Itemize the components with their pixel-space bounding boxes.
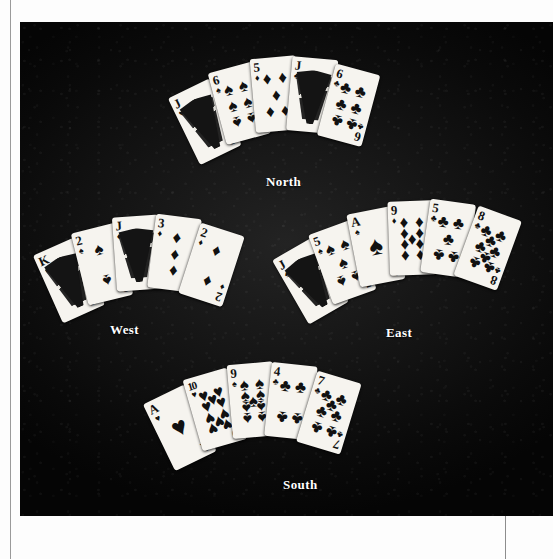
card-pip: ♣ [436, 213, 449, 231]
card-pip: ♠ [242, 410, 252, 428]
bridge-deal-photograph: J♥J♥6♠6♠♠♠♠♠♠♠5♦5♦♦♦♦♦♦J♣J♣6♣6♣♣♣♣♣♣♣ No… [20, 22, 553, 516]
hand-label-west: West [110, 322, 139, 338]
hand-south[interactable]: A♥A♥♥10♥10♥♥♥♥♥♥♥♥♥♥♥9♠9♠♠♠♠♠♠♠♠♠♠4♣4♣♣♣… [165, 347, 365, 482]
card-pip: ♠ [100, 271, 113, 290]
hand-label-east: East [386, 325, 412, 341]
hand-label-south: South [283, 477, 318, 493]
hand-west[interactable]: K♠K♠2♠2♠♠♠J♦J♦3♦3♦♦♦♦2♦2♦♦♦ [55, 200, 240, 330]
card-pip: ♣ [329, 111, 344, 130]
hand-west-cards: K♠K♠2♠2♠♠♠J♦J♦3♦3♦♦♦♦2♦2♦♦♦ [55, 200, 240, 330]
hand-north[interactable]: J♥J♥6♠6♠♠♠♠♠♠♠5♦5♦♦♦♦♦♦J♣J♣6♣6♣♣♣♣♣♣♣ [190, 47, 370, 177]
card-pip: ♠ [230, 113, 243, 132]
card-pip-cluster: ♣♣♣♣♣♣♣ [306, 387, 353, 441]
card-pip: ♣ [279, 377, 292, 395]
card-pip: ♠ [93, 240, 106, 259]
card-pip-cluster: ♦♦ [188, 239, 236, 294]
card-pip: ♣ [294, 378, 307, 396]
hand-east-cards: J♠J♠5♠5♠♠♠♠♠♠A♠A♠♠9♦9♦♦♦♦♦♦♦♦♦♦5♣5♣♣♣♣♣♣… [300, 187, 525, 327]
card-pip: ♣ [344, 115, 359, 134]
card-pip: ♦ [401, 248, 410, 265]
card-pip-cluster: ♣♣♣♣♣♣♣♣ [463, 222, 512, 277]
card-pip: ♣ [467, 253, 483, 273]
card-pip: ♦ [278, 69, 288, 87]
hand-label-north: North [266, 174, 301, 190]
card-pip: ♣ [276, 408, 289, 426]
card-pip: ♣ [324, 422, 340, 442]
hand-north-cards: J♥J♥6♠6♠♠♠♠♠♠♠5♦5♦♦♦♦♦♦J♣J♣6♣6♣♣♣♣♣♣♣ [190, 47, 370, 177]
page-margin-rule-bottom [505, 516, 506, 559]
card-pip: ♦ [168, 262, 179, 280]
hand-south-cards: A♥A♥♥10♥10♥♥♥♥♥♥♥♥♥♥♥9♠9♠♠♠♠♠♠♠♠♠♠4♣4♣♣♣… [165, 347, 365, 482]
page-margin-rule-left [10, 0, 11, 559]
scanned-page: J♥J♥6♠6♠♠♠♠♠♠♠5♦5♦♦♦♦♦♦J♣J♣6♣6♣♣♣♣♣♣♣ No… [0, 0, 553, 559]
hand-east[interactable]: J♠J♠5♠5♠♠♠♠♠♠A♠A♠♠9♦9♦♦♦♦♦♦♦♦♦♦5♣5♣♣♣♣♣♣… [300, 187, 525, 327]
card-pip: ♦ [210, 242, 224, 261]
card-pip: ♦ [200, 271, 214, 290]
card-pip: ♦ [265, 103, 275, 121]
card-pip: ♠ [334, 272, 348, 291]
card-pip: ♣ [309, 418, 325, 438]
card-pip: ♠ [338, 235, 352, 254]
card-pip: ♣ [432, 246, 445, 264]
